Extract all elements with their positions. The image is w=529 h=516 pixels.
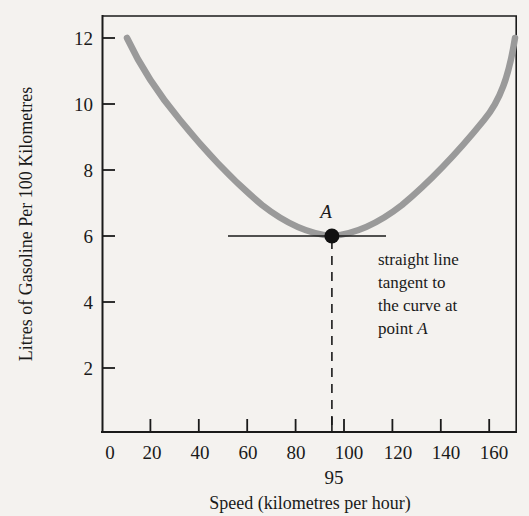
fuel-consumption-chart: 12 10 8 6 4 2 0 20 40 60 80 100 1 [0,0,529,516]
x-tick-label-140: 140 [432,442,461,463]
y-tick-label-4: 4 [84,292,94,313]
x-axis-title: Speed (kilometres per hour) [209,493,410,514]
annotation-line-3: the curve at [378,296,458,315]
annotation-line-2: tangent to [378,273,446,292]
y-tick-label-8: 8 [84,160,94,181]
annotation-line-4: point A [378,319,428,338]
x-tick-label-100: 100 [335,442,364,463]
annotation-line-4-prefix: point [378,319,417,338]
x-tick-label-40: 40 [191,442,210,463]
chart-svg: 12 10 8 6 4 2 0 20 40 60 80 100 1 [0,0,529,516]
y-axis-title: Litres of Gasoline Per 100 Kilometres [16,87,36,361]
x-tick-label-0: 0 [105,442,115,463]
x-tick-label-120: 120 [384,442,413,463]
x-tick-label-20: 20 [143,442,162,463]
y-tick-label-2: 2 [84,358,94,379]
x-tick-label-80: 80 [287,442,306,463]
annotation-line-1: straight line [378,250,459,269]
point-a-label: A [318,201,332,222]
y-tick-label-6: 6 [84,226,94,247]
x-tick-label-95: 95 [325,467,344,488]
point-a-marker [324,229,339,244]
y-tick-label-10: 10 [74,94,93,115]
x-tick-label-60: 60 [239,442,258,463]
x-tick-label-160: 160 [480,442,509,463]
y-tick-label-12: 12 [74,28,93,49]
annotation-line-4-italic: A [416,319,428,338]
